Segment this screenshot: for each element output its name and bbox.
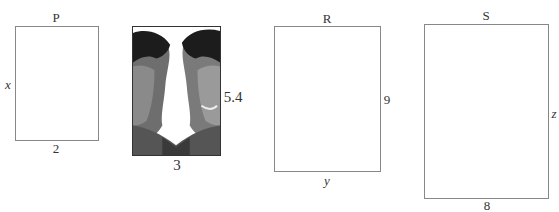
rectangle-s-title: S <box>482 9 489 22</box>
rectangle-p-width-label: 2 <box>53 142 60 155</box>
rectangle-s-height-label: z <box>551 107 556 120</box>
rectangle-p <box>15 26 99 141</box>
rectangle-s <box>424 24 549 199</box>
rectangle-r-height-label: 9 <box>384 93 391 106</box>
two-faces-photo-icon <box>133 27 220 155</box>
rectangle-p-title: P <box>52 11 59 24</box>
rectangle-r <box>274 26 381 172</box>
photo-width-label: 3 <box>173 159 181 172</box>
rectangle-r-width-label: y <box>324 174 330 187</box>
rectangle-p-height-label: x <box>5 78 11 91</box>
rectangle-r-title: R <box>323 12 332 25</box>
photo-rectangle <box>132 26 221 156</box>
photo-height-label: 5.4 <box>224 91 243 104</box>
rectangle-s-width-label: 8 <box>484 199 491 212</box>
